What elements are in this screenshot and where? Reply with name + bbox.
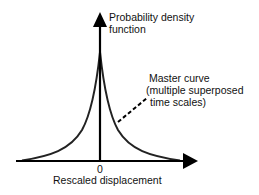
- annotation-line1: Master curve: [149, 73, 210, 84]
- x-axis-label: Rescaled displacement: [53, 175, 162, 186]
- annotation-line3: time scales): [150, 97, 206, 108]
- y-axis-arrowhead-icon: [93, 12, 107, 27]
- annotation-line2: (multiple superposed: [146, 85, 243, 96]
- x-axis-arrowhead-icon: [183, 153, 198, 169]
- annotation-leader-line: [118, 98, 147, 122]
- y-axis-label-line2: function: [109, 24, 146, 35]
- figure-canvas: Probability density function Master curv…: [0, 0, 259, 195]
- y-axis-label-line1: Probability density: [109, 12, 194, 23]
